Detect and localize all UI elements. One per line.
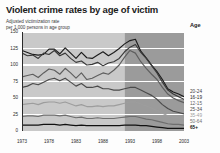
- legend-item-16-19[interactable]: 16-19: [190, 95, 202, 100]
- legend-item-label: 35-49: [190, 113, 202, 118]
- legend-item-12-15[interactable]: 12-15: [190, 101, 202, 106]
- y-axis-tick-label: 75: [0, 79, 18, 84]
- y-axis-tick-label: 0: [0, 128, 18, 133]
- legend-item-35-49[interactable]: 35-49: [190, 113, 202, 118]
- legend-item-label: 12-15: [190, 101, 202, 106]
- legend-item-25-34[interactable]: 25-34: [190, 107, 202, 112]
- x-axis-tick-label: 1973: [12, 139, 32, 144]
- legend-item-label: 25-34: [190, 107, 202, 112]
- x-axis-tick-label: 1993: [120, 139, 140, 144]
- x-axis-tick-label: 1978: [39, 139, 59, 144]
- x-axis-tick-label: 1988: [93, 139, 113, 144]
- line-chart-svg: [22, 32, 184, 131]
- legend-item-20-24[interactable]: 20-24: [190, 89, 202, 94]
- legend-item-label: 16-19: [190, 95, 202, 100]
- x-axis-tick-label: 2003: [174, 139, 194, 144]
- x-axis-tick-label: 1983: [66, 139, 86, 144]
- legend-item-label: 50-64: [190, 119, 202, 124]
- chart-title: Violent crime rates by age of victim: [6, 4, 158, 15]
- legend-item-50-64[interactable]: 50-64: [190, 119, 202, 124]
- y-axis-tick-label: 150: [0, 29, 18, 34]
- y-axis-tick-label: 125: [0, 46, 18, 51]
- plot-area: [22, 32, 184, 131]
- y-axis-tick-label: 25: [0, 112, 18, 117]
- legend-item-label: 65+: [190, 125, 198, 130]
- x-axis-tick-label: 1998: [147, 139, 167, 144]
- legend-title: Age: [190, 22, 201, 28]
- chart-page: Violent crime rates by age of victim Adj…: [0, 0, 220, 153]
- legend-item-65+[interactable]: 65+: [190, 125, 198, 130]
- y-axis-tick-label: 100: [0, 62, 18, 67]
- legend-item-label: 20-24: [190, 89, 202, 94]
- y-axis-tick-label: 50: [0, 95, 18, 100]
